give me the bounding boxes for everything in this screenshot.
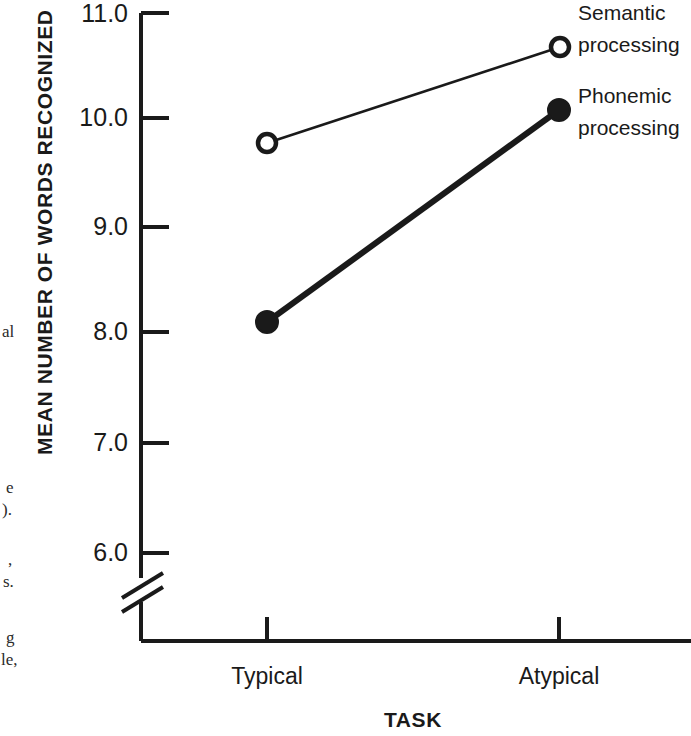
y-axis-title: MEAN NUMBER OF WORDS RECOGNIZED [33, 9, 56, 455]
y-tick-marks [141, 13, 169, 553]
data-point-semantic-typical [258, 134, 276, 152]
x-axis: Typical Atypical TASK [141, 617, 691, 731]
series-line-semantic [267, 47, 560, 143]
y-tick-label: 11.0 [81, 0, 128, 27]
y-tick-label: 8.0 [93, 317, 128, 345]
figure-panel: al e ). , s. g le, [0, 0, 691, 736]
y-tick-label: 6.0 [93, 538, 128, 566]
y-tick-label: 7.0 [93, 428, 128, 456]
legend: Semantic processing Phonemic processing [578, 1, 680, 139]
x-tick-label-typical: Typical [231, 663, 303, 689]
y-tick-label: 10.0 [79, 103, 128, 131]
y-axis: 11.0 10.0 9.0 8.0 7.0 6.0 MEAN NUMBER OF… [33, 0, 169, 641]
legend-label-semantic-line1: Semantic [578, 1, 666, 24]
series-phonemic-processing [256, 99, 570, 333]
y-tick-label: 9.0 [93, 212, 128, 240]
legend-label-semantic-line2: processing [578, 33, 680, 56]
legend-label-phonemic-line1: Phonemic [578, 84, 671, 107]
legend-item-semantic: Semantic processing [578, 1, 680, 56]
x-tick-label-atypical: Atypical [519, 663, 600, 689]
data-point-semantic-atypical [551, 38, 569, 56]
legend-item-phonemic: Phonemic processing [578, 84, 680, 139]
data-point-phonemic-atypical [548, 99, 570, 121]
x-axis-title: TASK [384, 708, 442, 731]
chart-canvas: 11.0 10.0 9.0 8.0 7.0 6.0 MEAN NUMBER OF… [0, 0, 691, 736]
data-point-phonemic-typical [256, 311, 278, 333]
legend-label-phonemic-line2: processing [578, 116, 680, 139]
series-line-phonemic [267, 110, 559, 322]
